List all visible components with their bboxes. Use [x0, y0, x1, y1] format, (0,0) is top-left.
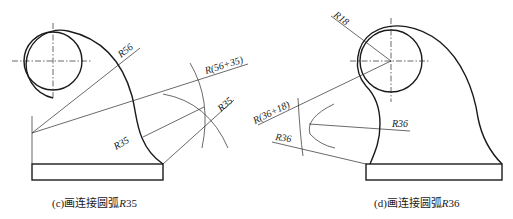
r35-label-right: R35	[214, 95, 234, 114]
caption-prefix: (d)	[374, 197, 387, 209]
caption-prefix: (c)	[52, 197, 64, 209]
caption-num: 35	[126, 197, 137, 209]
r36-label-right: R36	[391, 118, 408, 129]
r35-radius-line	[143, 107, 204, 137]
r36-leader	[272, 142, 366, 164]
caption-num: 36	[449, 197, 460, 209]
construction-arc-small	[309, 104, 335, 148]
caption-text: 画连接圆弧	[387, 197, 442, 209]
r35-label-arc: R35	[111, 134, 131, 152]
figure-d: R18 R(36+18) R36 R36	[250, 8, 502, 180]
drawing-stage: R56 R(56+35) R35 R35 R18 R(36+18)	[0, 0, 513, 219]
caption-r: R	[442, 197, 449, 209]
caption-r: R	[119, 197, 126, 209]
outer-contour	[26, 30, 163, 164]
r56-35-leader	[32, 64, 248, 133]
r56-35-label: R(56+35)	[202, 54, 245, 78]
caption-d: (d)画连接圆弧R36	[374, 194, 460, 210]
caption-text: 画连接圆弧	[64, 197, 119, 209]
base-plate	[32, 164, 163, 180]
construction-arc-large	[298, 98, 303, 156]
construction-arc-large	[190, 63, 205, 148]
r36-label-left: R36	[274, 131, 292, 144]
outer-contour	[357, 26, 502, 164]
base-plate	[366, 164, 502, 180]
caption-c: (c)画连接圆弧R35	[52, 194, 137, 210]
r56-label: R56	[115, 41, 135, 60]
technical-drawing: R56 R(56+35) R35 R35 R18 R(36+18)	[0, 0, 513, 219]
r18-label: R18	[331, 8, 351, 27]
r36-18-label: R(36+18)	[250, 98, 292, 127]
figure-c: R56 R(56+35) R35 R35	[12, 23, 248, 180]
